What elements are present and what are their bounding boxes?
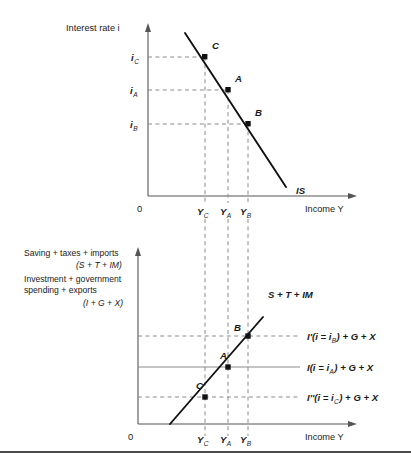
is-curve xyxy=(185,33,286,187)
lower-point-c-marker xyxy=(202,394,207,399)
upper-xtick-yc: YC xyxy=(197,206,209,219)
lower-y-axis-label-line2: (S + T + IM) xyxy=(76,260,122,270)
upper-y-axis-arrow xyxy=(145,23,151,32)
lower-xtick-yb: YB xyxy=(240,434,252,447)
upper-xtick-ya: YA xyxy=(220,206,232,219)
lower-point-a-label: A xyxy=(219,350,227,361)
is-curve-label: IS xyxy=(296,185,306,196)
lower-panel: Saving + taxes + imports (S + T + IM) In… xyxy=(24,247,379,447)
upper-point-c-marker xyxy=(202,54,207,59)
lower-y-axis-label-line1: Saving + taxes + imports xyxy=(24,248,119,258)
line-ib-label: I'(i = iB) + G + X xyxy=(307,331,376,344)
upper-panel: Interest rate i IS C A B iC iA xyxy=(66,23,357,219)
upper-point-b-label: B xyxy=(255,107,262,118)
upper-y-axis-label: Interest rate i xyxy=(66,23,120,33)
panel-connector-guides xyxy=(205,219,248,436)
s-t-im-curve xyxy=(170,317,263,424)
lower-y-axis-label-line5: (I + G + X) xyxy=(83,298,123,308)
lower-xtick-yc: YC xyxy=(197,434,209,447)
line-ic-label: I''(i = iC) + G + X xyxy=(307,392,379,405)
lower-xtick-ya: YA xyxy=(220,434,232,447)
lower-y-axis-label-line4: spending + exports xyxy=(24,285,97,295)
line-ia-label: I(i = iA) + G + X xyxy=(307,362,374,375)
lower-point-b-label: B xyxy=(234,322,241,333)
lower-y-axis-arrow xyxy=(135,247,141,256)
upper-xtick-yb: YB xyxy=(240,206,252,219)
upper-x-axis-arrow xyxy=(348,193,357,199)
upper-point-c-label: C xyxy=(212,40,220,51)
is-curve-figure: Interest rate i IS C A B iC iA xyxy=(0,0,411,459)
lower-y-axis-label-line3: Investment + government xyxy=(24,274,122,284)
lower-origin-label: 0 xyxy=(128,431,133,442)
upper-ytick-ib: iB xyxy=(130,119,138,132)
upper-y-axis xyxy=(145,23,151,196)
upper-x-axis-label: Income Y xyxy=(305,204,344,214)
lower-x-axis-label: Income Y xyxy=(305,432,344,442)
s-t-im-curve-label: S + T + IM xyxy=(268,289,314,300)
upper-point-a-marker xyxy=(225,87,230,92)
upper-x-axis xyxy=(148,193,357,199)
lower-x-axis-arrow xyxy=(348,421,357,427)
lower-point-a-marker xyxy=(225,364,230,369)
upper-ytick-ia: iA xyxy=(130,85,138,98)
upper-ytick-ic: iC xyxy=(131,52,139,65)
lower-y-axis-label: Saving + taxes + imports (S + T + IM) In… xyxy=(24,248,123,308)
upper-origin-label: 0 xyxy=(137,203,142,214)
upper-point-b-marker xyxy=(245,121,250,126)
lower-point-c-label: C xyxy=(196,380,204,391)
upper-point-a-label: A xyxy=(234,73,242,84)
lower-point-b-marker xyxy=(245,333,250,338)
figure-canvas: Interest rate i IS C A B iC iA xyxy=(0,0,411,459)
